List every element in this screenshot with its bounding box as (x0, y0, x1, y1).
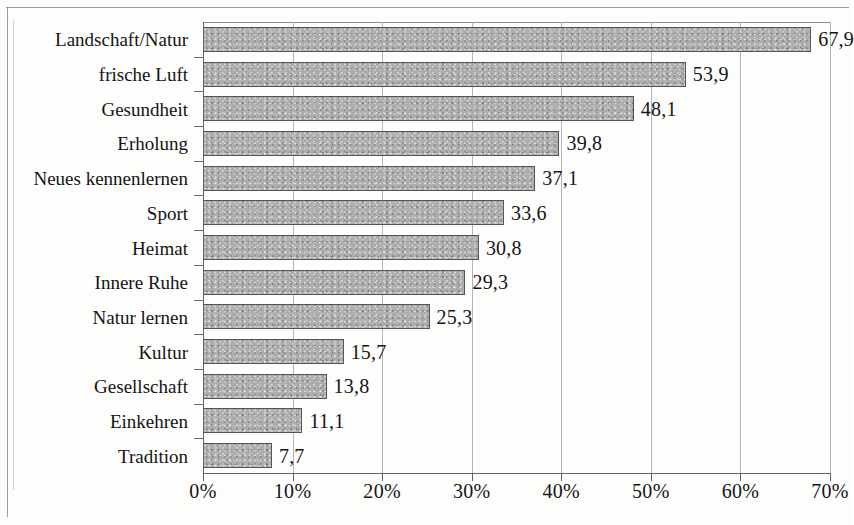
x-tick-label: 30% (453, 481, 491, 501)
category-label: Einkehren (110, 412, 188, 431)
x-tick-label: 50% (632, 481, 670, 501)
y-tick (194, 265, 203, 266)
gridline-50% (651, 22, 652, 473)
x-tick-label: 20% (363, 481, 401, 501)
bar (203, 339, 344, 364)
bar (203, 62, 686, 87)
bar-value-label: 37,1 (542, 168, 578, 188)
bar (203, 27, 811, 52)
bar-value-label: 67,9 (818, 29, 854, 49)
x-tick-label: 0% (189, 481, 216, 501)
x-tick-label: 70% (811, 481, 849, 501)
bar-value-label: 11,1 (309, 411, 344, 431)
bar (203, 131, 559, 156)
bar-value-label: 25,3 (437, 307, 473, 327)
gridline-60% (740, 22, 741, 473)
category-label: Innere Ruhe (95, 273, 188, 292)
category-label: Sport (147, 204, 188, 223)
y-tick (194, 300, 203, 301)
bar-value-label: 15,7 (351, 342, 387, 362)
y-tick (194, 161, 203, 162)
category-label: frische Luft (99, 65, 188, 84)
x-axis-line (203, 473, 831, 474)
bar-value-label: 48,1 (641, 99, 677, 119)
x-axis-tick-labels: 0%10%20%30%40%50%60%70% (203, 481, 843, 513)
y-tick (194, 57, 203, 58)
bar-value-label: 13,8 (334, 376, 370, 396)
category-label: Kultur (138, 343, 188, 362)
y-tick (194, 369, 203, 370)
y-tick (194, 334, 203, 335)
bar (203, 408, 302, 433)
x-tick-label: 60% (722, 481, 760, 501)
y-tick (194, 91, 203, 92)
category-label: Landschaft/Natur (55, 30, 188, 49)
gridline-70% (830, 22, 831, 473)
category-label: Gesundheit (101, 100, 188, 119)
y-tick (194, 438, 203, 439)
bar-value-label: 53,9 (693, 64, 729, 84)
bar (203, 304, 430, 329)
bar (203, 443, 272, 468)
category-label: Tradition (118, 447, 188, 466)
bar-value-label: 39,8 (566, 133, 602, 153)
bar-value-label: 33,6 (511, 203, 547, 223)
y-tick (194, 230, 203, 231)
bar (203, 200, 504, 225)
bar (203, 374, 327, 399)
category-label: Natur lernen (93, 308, 188, 327)
bar-value-label: 30,8 (486, 238, 522, 258)
x-tick-label: 40% (543, 481, 581, 501)
bar-value-label: 29,3 (472, 272, 508, 292)
y-tick (194, 126, 203, 127)
category-label: Gesellschaft (94, 377, 188, 396)
plot-area: 67,953,948,139,837,133,630,829,325,315,7… (203, 22, 830, 473)
y-axis-line (203, 22, 204, 474)
gridline-40% (561, 22, 562, 473)
category-axis-labels: Landschaft/Naturfrische LuftGesundheitEr… (0, 22, 196, 473)
category-label: Neues kennenlernen (33, 169, 188, 188)
category-label: Erholung (117, 134, 188, 153)
bar (203, 235, 479, 260)
y-tick (194, 404, 203, 405)
bar (203, 166, 535, 191)
bar-value-label: 7,7 (279, 446, 305, 466)
plot-top-rule (203, 22, 830, 23)
category-label: Heimat (132, 239, 188, 258)
bar (203, 270, 465, 295)
x-tick-label: 10% (274, 481, 312, 501)
bar (203, 96, 634, 121)
y-tick (194, 195, 203, 196)
